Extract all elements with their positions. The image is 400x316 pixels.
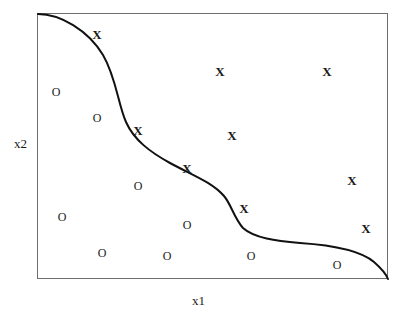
data-point-x: X xyxy=(182,162,191,175)
data-point-x: X xyxy=(133,124,142,137)
data-point-x: X xyxy=(239,202,248,215)
data-point-o: O xyxy=(247,250,256,262)
data-point-x: X xyxy=(215,65,224,78)
x-axis-label: x1 xyxy=(192,294,205,307)
data-point-o: O xyxy=(333,259,342,271)
data-point-o: O xyxy=(134,180,143,192)
figure-canvas: XXXXXXXXXOOOOOOOOO x2 x1 xyxy=(0,0,400,316)
y-axis-label: x2 xyxy=(14,137,27,150)
data-point-x: X xyxy=(322,65,331,78)
data-point-o: O xyxy=(183,219,192,231)
data-point-x: X xyxy=(361,222,370,235)
plot-frame xyxy=(37,13,388,279)
data-point-o: O xyxy=(163,250,172,262)
data-point-x: X xyxy=(92,28,101,41)
data-point-x: X xyxy=(227,129,236,142)
data-point-o: O xyxy=(52,86,61,98)
data-point-o: O xyxy=(58,211,67,223)
data-point-o: O xyxy=(93,112,102,124)
data-point-o: O xyxy=(98,247,107,259)
data-point-x: X xyxy=(347,174,356,187)
